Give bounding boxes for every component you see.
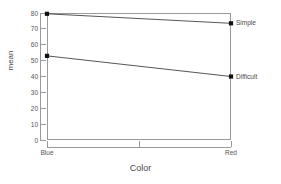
y-tick-label: 10 bbox=[31, 121, 38, 128]
plot-area bbox=[47, 13, 231, 140]
x-tick bbox=[231, 141, 232, 147]
x-axis-title: Color bbox=[0, 163, 281, 173]
y-tick-label: 50 bbox=[31, 57, 38, 64]
y-tick bbox=[40, 108, 46, 109]
x-tick bbox=[139, 141, 140, 147]
y-tick-label: 0 bbox=[34, 137, 38, 144]
y-tick bbox=[40, 28, 46, 29]
y-tick-label: 20 bbox=[31, 105, 38, 112]
y-tick bbox=[40, 124, 46, 125]
y-tick bbox=[40, 13, 46, 14]
x-tick bbox=[47, 141, 48, 147]
y-axis-title: mean bbox=[6, 55, 15, 71]
series-label-simple: Simple bbox=[236, 19, 256, 27]
y-tick bbox=[40, 92, 46, 93]
y-tick-label: 70 bbox=[31, 25, 38, 32]
x-tick-label: Red bbox=[225, 149, 237, 157]
y-tick bbox=[40, 76, 46, 77]
x-tick-label: Blue bbox=[40, 149, 53, 157]
y-tick-label: 80 bbox=[31, 10, 38, 17]
y-tick bbox=[40, 44, 46, 45]
y-tick bbox=[40, 60, 46, 61]
y-tick-label: 60 bbox=[31, 41, 38, 48]
y-tick bbox=[40, 140, 46, 141]
interaction-plot: 01020304050607080 BlueRed SimpleDifficul… bbox=[0, 0, 281, 184]
series-label-difficult: Difficult bbox=[236, 73, 257, 81]
y-tick-label: 40 bbox=[31, 73, 38, 80]
x-axis-line bbox=[47, 147, 231, 148]
y-tick-label: 30 bbox=[31, 89, 38, 96]
